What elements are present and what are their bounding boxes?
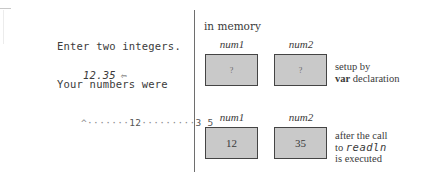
variable-label-num2: num2	[274, 38, 328, 50]
leading-dots: ^·······	[81, 117, 129, 128]
corner-bracket-top	[0, 8, 11, 9]
declaration-caption: setup by var declaration	[335, 61, 399, 84]
readln-code: readln	[346, 141, 387, 153]
corner-bracket-left	[3, 10, 4, 44]
variable-label-num1: num1	[205, 38, 259, 50]
readln-caption: after the call to readln is executed	[335, 130, 387, 165]
caption-text: declaration	[350, 73, 399, 84]
caption-line: var declaration	[335, 73, 399, 85]
memory-cell-value: 35	[295, 137, 306, 149]
memory-title: in memory	[204, 20, 261, 32]
memory-cell-value: ?	[299, 66, 303, 75]
caption-line: is executed	[335, 153, 387, 165]
memory-cell-num2: 35	[274, 127, 327, 159]
memory-cell-num1: 12	[205, 127, 258, 159]
first-output-value: 12	[129, 117, 141, 128]
caption-text: to	[335, 142, 346, 153]
output-line: ^·······12·········3 5	[57, 106, 214, 139]
memory-cell-num2: ?	[274, 54, 327, 86]
panel-divider	[194, 10, 195, 172]
middle-dots: ·········	[141, 117, 195, 128]
memory-cell-value: 12	[226, 137, 237, 149]
caption-line: setup by	[335, 61, 399, 73]
var-keyword: var	[335, 73, 350, 84]
result-text: Your numbers were	[57, 78, 168, 90]
memory-cell-num1: ?	[205, 54, 258, 86]
variable-label-num1: num1	[205, 111, 259, 123]
memory-cell-value: ?	[230, 66, 234, 75]
variable-label-num2: num2	[274, 111, 328, 123]
caption-line: to readln	[335, 142, 387, 154]
prompt-text: Enter two integers.	[57, 40, 181, 52]
